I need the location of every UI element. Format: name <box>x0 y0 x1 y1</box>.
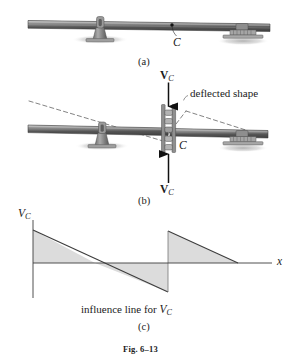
shear-force-label-top-subscript: C <box>168 74 174 83</box>
shear-release-device <box>162 105 176 153</box>
influence-line-caption-text: influence line for <box>81 303 160 315</box>
panel-a-label: (a) <box>138 57 150 68</box>
shear-force-label-top: VC <box>160 70 174 84</box>
figure-page: C (a) VC deflected shape C VC (b) VC x i… <box>0 0 293 364</box>
point-c-label-a: C <box>173 37 181 49</box>
panel-a-graphics <box>28 17 270 46</box>
figure-number: Fig. 6–13 <box>123 345 158 354</box>
panel-c-label: (c) <box>138 322 150 333</box>
influence-line-caption-subscript: C <box>167 308 172 317</box>
deflected-shape-leader <box>184 96 188 101</box>
y-axis-label-symbol: V <box>18 207 25 219</box>
beam-b <box>28 125 268 138</box>
y-axis-label: VC <box>18 208 31 221</box>
x-axis-label: x <box>277 256 282 268</box>
influence-area-left-negative <box>95 263 168 292</box>
point-c-label-b: C <box>179 140 187 152</box>
influence-area-left-positive <box>33 230 95 263</box>
influence-line-caption: influence line for VC <box>81 304 172 317</box>
influence-line-caption-symbol: V <box>160 303 167 315</box>
panel-b-label: (b) <box>138 196 150 207</box>
shear-force-label-bottom: VC <box>160 184 174 198</box>
y-axis-label-subscript: C <box>25 211 31 221</box>
panel-c-graphics <box>33 220 272 298</box>
deflected-shape-annotation: deflected shape <box>190 88 258 99</box>
shear-force-label-bottom-subscript: C <box>168 188 174 197</box>
